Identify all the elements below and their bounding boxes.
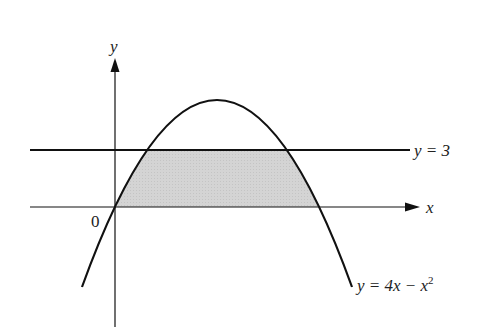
line-label: y = 3 bbox=[412, 141, 450, 160]
y-axis-arrow-icon bbox=[111, 58, 120, 72]
line-label-text: y = 3 bbox=[412, 141, 450, 160]
parabola-label: y = 4x − x2 bbox=[355, 274, 434, 295]
shaded-region bbox=[110, 150, 330, 207]
x-axis-arrow-icon bbox=[405, 203, 420, 212]
origin-label: 0 bbox=[91, 212, 100, 231]
y-axis bbox=[111, 58, 120, 327]
y-axis-label: y bbox=[108, 37, 118, 56]
x-axis-label: x bbox=[425, 198, 434, 217]
parabola-label-text: y = 4x − x bbox=[355, 276, 429, 295]
diagram-canvas: y x 0 y = 3 y = 4x − x2 bbox=[0, 0, 483, 336]
parabola-label-exponent: 2 bbox=[428, 274, 434, 286]
